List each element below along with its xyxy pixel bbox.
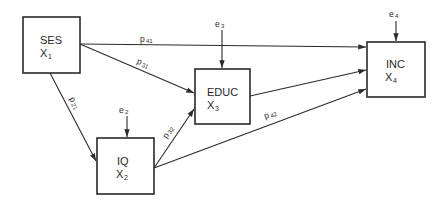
path-p43-arrow [250, 70, 366, 96]
svg-text:32: 32 [167, 126, 176, 135]
node-ses-var: X [40, 47, 48, 59]
svg-text:21: 21 [70, 102, 79, 111]
node-iq-var: X [116, 168, 124, 180]
svg-text:31: 31 [141, 62, 150, 70]
path-p41-arrow [80, 44, 366, 47]
node-educ-sub: 3 [215, 105, 219, 112]
svg-text:e: e [119, 105, 124, 115]
node-iq-label: IQ [117, 155, 129, 167]
path-diagram: SES X 1 EDUC X 3 INC X 4 IQ X 2 e 2 e 3 … [0, 0, 445, 214]
path-p31-arrow [80, 44, 194, 93]
node-iq: IQ X 2 [97, 138, 154, 194]
svg-text:4: 4 [395, 13, 399, 19]
svg-text:p: p [140, 34, 145, 44]
error-e3: e 3 [215, 19, 225, 29]
node-inc: INC X 4 [367, 42, 425, 97]
label-p41: p 41 [140, 34, 153, 44]
svg-text:41: 41 [146, 38, 153, 44]
svg-text:3: 3 [221, 23, 225, 29]
svg-text:42: 42 [269, 111, 278, 119]
path-p32-arrow [154, 109, 194, 168]
path-p42-arrow [154, 89, 366, 168]
node-inc-var: X [385, 71, 393, 83]
node-educ-var: X [207, 99, 215, 111]
node-iq-sub: 2 [124, 174, 128, 181]
label-p21: p 21 [67, 95, 82, 111]
node-ses-label: SES [40, 34, 62, 46]
label-p31: p 31 [135, 56, 151, 70]
error-e2: e 2 [119, 105, 129, 115]
node-ses-sub: 1 [48, 53, 52, 60]
path-p21-arrow [50, 73, 96, 161]
node-educ-label: EDUC [207, 86, 238, 98]
node-ses: SES X 1 [23, 17, 80, 73]
svg-text:e: e [389, 9, 394, 19]
svg-text:e: e [215, 19, 220, 29]
svg-text:2: 2 [125, 109, 129, 115]
node-educ: EDUC X 3 [195, 69, 250, 124]
node-inc-sub: 4 [393, 77, 397, 84]
error-e4: e 4 [389, 9, 399, 19]
label-p32: p 32 [160, 123, 176, 140]
label-p42: p 42 [262, 107, 278, 121]
node-inc-label: INC [386, 58, 405, 70]
